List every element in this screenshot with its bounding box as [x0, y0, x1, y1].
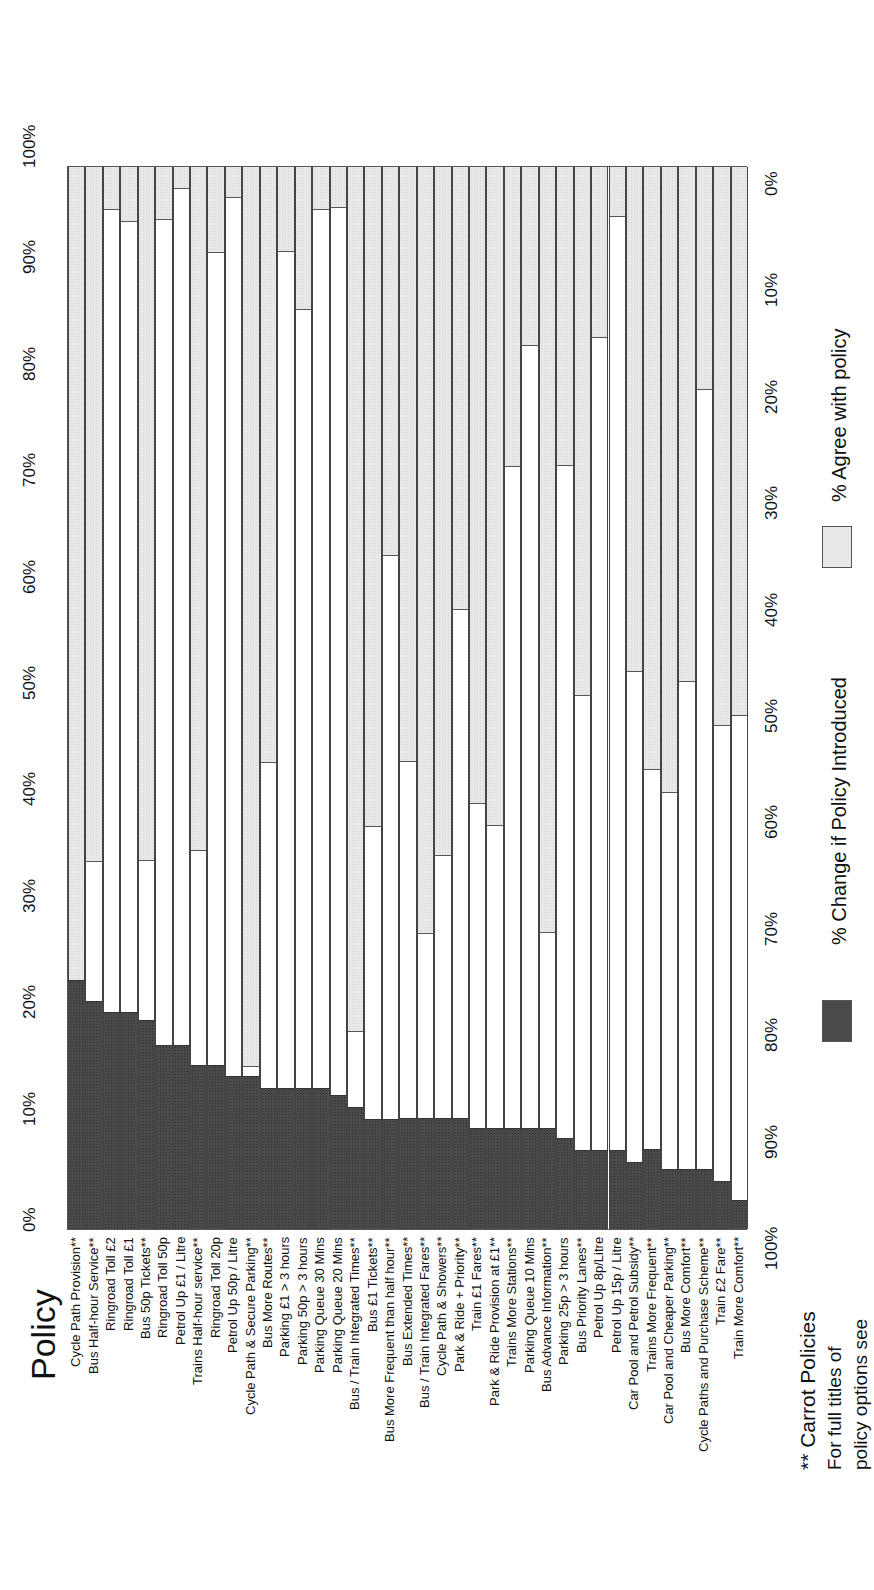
- bar: [731, 167, 748, 1229]
- bar-agree-segment: [696, 167, 713, 390]
- bar-change-segment: [591, 1150, 608, 1229]
- bar-change-segment: [469, 1128, 486, 1229]
- category-label: Ringroad Toll £1: [120, 1237, 137, 1331]
- left-axis-tick-label: 30%: [20, 879, 40, 913]
- left-axis-tick-label: 10%: [20, 1092, 40, 1126]
- bar-change-segment: [68, 980, 85, 1229]
- bar: [452, 167, 469, 1229]
- bar-change-segment: [643, 1149, 660, 1229]
- bar-change-segment: [504, 1128, 521, 1229]
- bar: [556, 167, 573, 1229]
- right-axis-tick-label: 10%: [762, 273, 782, 307]
- bar-agree-segment: [626, 167, 643, 672]
- category-label: Car Pool and Petrol Subsidy**: [625, 1237, 642, 1410]
- bar: [277, 167, 294, 1229]
- category-label: Bus More Frequent than half hour**: [381, 1237, 398, 1442]
- bar-agree-segment: [469, 167, 486, 804]
- bar-change-segment: [347, 1107, 364, 1229]
- bar-agree-segment: [574, 167, 591, 696]
- category-label: Cycle Path & Secure Parking**: [242, 1237, 259, 1415]
- bar-agree-segment: [190, 167, 207, 851]
- bar-change-segment: [190, 1065, 207, 1229]
- bar: [330, 167, 347, 1229]
- bar-agree-segment: [225, 167, 242, 198]
- category-label: Car Pool and Cheaper Parking**: [660, 1237, 677, 1424]
- bar: [486, 167, 503, 1229]
- category-label: Parking Queue 10 Mins: [521, 1237, 538, 1373]
- footnote-line-2: policy options see: [848, 1319, 874, 1470]
- category-label: Cycle Path & Showers**: [433, 1237, 450, 1376]
- bar: [382, 167, 399, 1229]
- bar-agree-segment: [539, 167, 556, 933]
- bar-change-segment: [417, 1118, 434, 1229]
- bar: [661, 167, 678, 1229]
- bar: [103, 167, 120, 1229]
- category-label: Bus 50p Tickets**: [137, 1237, 154, 1339]
- bar-change-segment: [295, 1088, 312, 1230]
- category-label: Bus Advance Information**: [538, 1237, 555, 1392]
- left-axis-tick-label: 40%: [20, 772, 40, 806]
- bar-change-segment: [138, 1020, 155, 1229]
- right-axis-tick-label: 30%: [762, 486, 782, 520]
- bar-agree-segment: [103, 167, 120, 210]
- bar-agree-segment: [678, 167, 695, 682]
- bar: [190, 167, 207, 1229]
- bar-agree-segment: [364, 167, 381, 827]
- category-label: Cycle Paths and Purchase Scheme**: [695, 1237, 712, 1452]
- legend-swatch-change: [822, 1000, 852, 1042]
- bar-change-segment: [85, 1001, 102, 1229]
- bar-change-segment: [207, 1065, 224, 1229]
- bar-agree-segment: [556, 167, 573, 466]
- bar-agree-segment: [609, 167, 626, 217]
- bar: [713, 167, 730, 1229]
- bar-agree-segment: [417, 167, 434, 934]
- bar-gap-segment: [330, 167, 347, 1229]
- bar-change-segment: [713, 1181, 730, 1229]
- category-label: Bus £1 Tickets**: [364, 1237, 381, 1332]
- bar: [643, 167, 660, 1229]
- bar-agree-segment: [295, 167, 312, 310]
- bar-gap-segment: [312, 167, 329, 1229]
- category-label: Bus Half-hour Service**: [85, 1237, 102, 1374]
- left-axis-tick-label: 60%: [20, 560, 40, 594]
- left-axis-tick-label: 20%: [20, 985, 40, 1019]
- bar: [120, 167, 137, 1229]
- category-label: Trains More Frequent**: [643, 1237, 660, 1372]
- bar: [138, 167, 155, 1229]
- bar-change-segment: [225, 1076, 242, 1229]
- category-label: Bus / Train Integrated Times**: [346, 1237, 363, 1410]
- footnote-line-1: For full titles of: [822, 1346, 848, 1470]
- bar-change-segment: [312, 1088, 329, 1230]
- category-label: Train £2 Fare**: [712, 1237, 729, 1325]
- right-axis-tick-label: 80%: [762, 1018, 782, 1052]
- legend-label-change: % Change if Policy Introduced: [828, 677, 851, 945]
- right-axis-tick-label: 40%: [762, 593, 782, 627]
- bar-gap-segment: [225, 167, 242, 1229]
- right-axis-tick-label: 50%: [762, 699, 782, 733]
- bar-agree-segment: [452, 167, 469, 610]
- bar-change-segment: [364, 1119, 381, 1229]
- bar-agree-segment: [591, 167, 608, 338]
- bar: [417, 167, 434, 1229]
- bar-change-segment: [330, 1095, 347, 1229]
- category-label: Bus More Routes**: [259, 1237, 276, 1348]
- bar-gap-segment: [295, 167, 312, 1229]
- category-label: Petrol Up 15p / Litre: [608, 1237, 625, 1353]
- bar-agree-segment: [399, 167, 416, 762]
- bar-agree-segment: [434, 167, 451, 856]
- category-label: Ringroad Toll £2: [102, 1237, 119, 1331]
- right-axis-tick-label: 70%: [762, 912, 782, 946]
- left-axis-tick-label: 90%: [20, 240, 40, 274]
- bar-agree-segment: [68, 167, 85, 982]
- bar: [469, 167, 486, 1229]
- left-axis-tick-label: 100%: [20, 125, 40, 168]
- bar: [574, 167, 591, 1229]
- category-label: Petrol Up 8p/Litre: [590, 1237, 607, 1338]
- category-label: Bus Priority Lanes**: [573, 1237, 590, 1353]
- bar-agree-segment: [661, 167, 678, 793]
- bar-agree-segment: [85, 167, 102, 862]
- plot-area: [67, 166, 747, 1230]
- bar-change-segment: [260, 1088, 277, 1230]
- bar-agree-segment: [173, 167, 190, 189]
- left-axis-tick-label: 50%: [20, 666, 40, 700]
